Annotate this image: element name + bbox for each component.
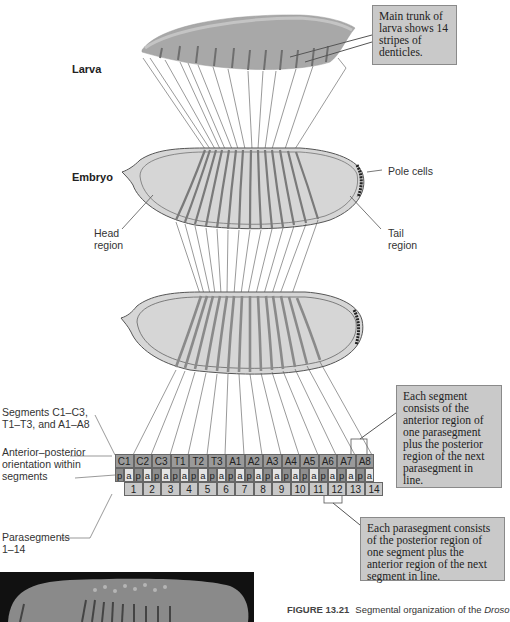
anterior-cell: a — [198, 468, 207, 482]
anterior-cell: a — [291, 468, 300, 482]
segment-cell: A2 — [245, 454, 264, 468]
head-region-label: Head region — [94, 227, 123, 251]
segment-cell: C3 — [152, 454, 171, 468]
anterior-cell: a — [180, 468, 189, 482]
parasegment-cell: 13 — [346, 482, 365, 496]
anterior-cell: a — [309, 468, 318, 482]
segment-cell: T2 — [189, 454, 208, 468]
segment-cell: A1 — [226, 454, 245, 468]
posterior-cell: p — [208, 468, 217, 482]
orientation-label: Anterior–posterior orientation within se… — [2, 446, 85, 482]
posterior-cell: p — [300, 468, 309, 482]
posterior-cell: p — [263, 468, 272, 482]
embryo-parasegment-illustration — [121, 292, 363, 374]
larva-trunk-callout: Main trunk of larva shows 14 stripes of … — [372, 5, 457, 65]
segment-cell: A8 — [356, 454, 375, 468]
tail-region-label: Tail region — [388, 227, 417, 251]
segment-cell: T1 — [171, 454, 190, 468]
segment-row: C1 C2 C3 T1 T2 T3 A1 A2 A3 A4 A5 A6 A7 A… — [115, 454, 383, 468]
parasegment-cell: 11 — [309, 482, 328, 496]
segment-grid: C1 C2 C3 T1 T2 T3 A1 A2 A3 A4 A5 A6 A7 A… — [115, 454, 383, 496]
figure-number: FIGURE 13.21 — [287, 604, 349, 615]
orientation-row: p a p a p a p a p a p a p a p a p a p a … — [115, 468, 383, 482]
anterior-cell: a — [235, 468, 244, 482]
figure-caption: FIGURE 13.21Segmental organization of th… — [287, 604, 510, 615]
anterior-cell: a — [365, 468, 374, 482]
parasegment-cell: 12 — [328, 482, 347, 496]
parasegment-definition-callout: Each parasegment consists of the posteri… — [360, 517, 505, 581]
parasegment-cell: 3 — [161, 482, 180, 496]
embryo-micrograph — [0, 572, 254, 622]
anterior-cell: a — [124, 468, 133, 482]
parasegment-row: 1 2 3 4 5 6 7 8 9 10 11 12 13 14 — [124, 482, 383, 496]
parasegment-cell: 9 — [272, 482, 291, 496]
segment-cell: T3 — [208, 454, 227, 468]
caption-italic: Droso — [484, 604, 509, 615]
posterior-cell: p — [226, 468, 235, 482]
parasegment-cell: 5 — [198, 482, 217, 496]
posterior-cell: p — [134, 468, 143, 482]
parasegment-cell: 1 — [124, 482, 143, 496]
anterior-cell: a — [272, 468, 281, 482]
segment-cell: A4 — [282, 454, 301, 468]
parasegment-cell: 4 — [180, 482, 199, 496]
embryo-grid-connectors — [60, 362, 372, 538]
posterior-cell: p — [152, 468, 161, 482]
anterior-cell: a — [346, 468, 355, 482]
posterior-cell: p — [115, 468, 124, 482]
posterior-cell: p — [189, 468, 198, 482]
larva-label: Larva — [72, 63, 101, 75]
parasegment-cell: 14 — [365, 482, 384, 496]
pole-cells-label: Pole cells — [388, 165, 433, 177]
anterior-cell: a — [143, 468, 152, 482]
anterior-cell: a — [328, 468, 337, 482]
posterior-cell: p — [319, 468, 328, 482]
posterior-cell: p — [356, 468, 365, 482]
anterior-cell: a — [217, 468, 226, 482]
parasegment-cell: 7 — [235, 482, 254, 496]
posterior-cell: p — [282, 468, 291, 482]
segment-definition-callout: Each segment consists of the anterior re… — [396, 385, 502, 488]
anterior-cell: a — [254, 468, 263, 482]
parasegment-cell: 10 — [291, 482, 310, 496]
segment-cell: C1 — [115, 454, 134, 468]
embryo-label: Embryo — [72, 171, 113, 183]
segment-cell: A3 — [263, 454, 282, 468]
parasegment-cell: 6 — [217, 482, 236, 496]
larva-illustration — [142, 15, 372, 70]
anterior-cell: a — [161, 468, 170, 482]
segment-cell: A5 — [300, 454, 319, 468]
segment-cell: A6 — [319, 454, 338, 468]
segment-cell: C2 — [134, 454, 153, 468]
caption-text: Segmental organization of the — [355, 604, 484, 615]
parasegment-cell: 8 — [254, 482, 273, 496]
parasegment-cell: 2 — [143, 482, 162, 496]
posterior-cell: p — [337, 468, 346, 482]
segments-label: Segments C1–C3, T1–T3, and A1–A8 — [2, 406, 90, 430]
larva-embryo-connectors — [143, 58, 346, 149]
posterior-cell: p — [245, 468, 254, 482]
posterior-cell: p — [171, 468, 180, 482]
embryo-embryo-connectors — [176, 220, 318, 294]
segment-cell: A7 — [337, 454, 356, 468]
parasegments-label: Parasegments 1–14 — [2, 531, 70, 555]
embryo-striped-illustration — [122, 148, 364, 229]
